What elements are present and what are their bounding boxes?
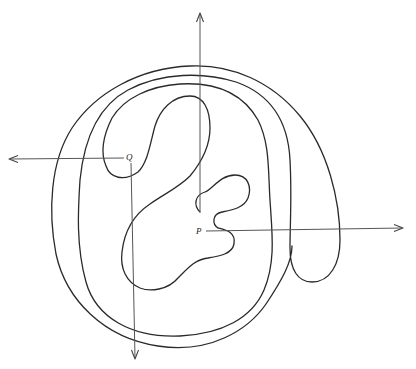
- point-label-p: P: [195, 226, 202, 236]
- point-label-q: Q: [126, 152, 133, 162]
- jordan-curve-diagram: Q P: [0, 0, 416, 369]
- ray-p-right: [206, 228, 402, 231]
- closed-curve: [52, 66, 340, 348]
- ray-q-left: [10, 158, 124, 159]
